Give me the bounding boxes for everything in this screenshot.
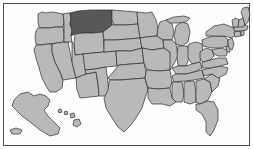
- state-connecticut[interactable]: [234, 31, 241, 37]
- state-north-dakota[interactable]: [112, 10, 138, 25]
- us-locator-map: United States map with Montana highlight…: [0, 0, 253, 149]
- state-michigan-upper[interactable]: [166, 16, 190, 23]
- state-minnesota[interactable]: [137, 12, 158, 38]
- state-missouri[interactable]: [142, 48, 172, 71]
- state-washington[interactable]: [38, 12, 64, 28]
- state-pennsylvania[interactable]: [202, 36, 228, 48]
- state-mississippi[interactable]: [172, 82, 184, 102]
- state-alaska-aleutians[interactable]: [10, 128, 22, 134]
- state-texas[interactable]: [104, 78, 148, 132]
- state-hawaii-maui[interactable]: [70, 113, 75, 118]
- state-florida[interactable]: [196, 101, 218, 136]
- state-colorado[interactable]: [83, 51, 117, 70]
- state-indiana[interactable]: [177, 46, 189, 66]
- us-map-svg: [0, 0, 253, 149]
- state-new-york[interactable]: [206, 24, 236, 38]
- state-new-jersey[interactable]: [228, 38, 234, 50]
- state-alabama[interactable]: [184, 81, 196, 104]
- state-arkansas[interactable]: [145, 70, 172, 89]
- state-georgia[interactable]: [196, 79, 212, 104]
- state-michigan-lower[interactable]: [174, 22, 190, 46]
- state-hawaii-kauai[interactable]: [58, 109, 62, 113]
- state-hawaii-big-island[interactable]: [73, 119, 81, 127]
- state-wyoming[interactable]: [74, 32, 104, 55]
- state-hawaii-oahu[interactable]: [64, 111, 68, 115]
- state-maryland[interactable]: [212, 48, 228, 56]
